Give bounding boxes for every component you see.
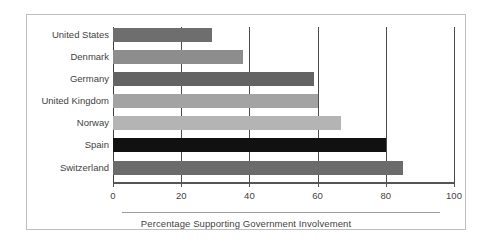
bar-germany[interactable] (113, 72, 314, 86)
bar-row (113, 71, 454, 92)
x-tick-label-60: 60 (298, 190, 338, 201)
bar-row (113, 160, 454, 181)
plot-area (113, 27, 454, 182)
bar-spain[interactable] (113, 138, 386, 152)
category-axis-labels: United States Denmark Germany United Kin… (27, 27, 109, 182)
category-label: Spain (27, 137, 109, 158)
category-label: Norway (27, 115, 109, 136)
category-label: Denmark (27, 49, 109, 70)
bar-denmark[interactable] (113, 50, 243, 64)
bar-switzerland[interactable] (113, 161, 403, 175)
category-label: United States (27, 27, 109, 48)
bar-united-states[interactable] (113, 28, 212, 42)
x-tick-label-80: 80 (366, 190, 406, 201)
bar-row (113, 137, 454, 158)
x-tick-20 (181, 182, 182, 187)
category-label: Switzerland (27, 160, 109, 181)
bar-series (113, 27, 454, 182)
bar-norway[interactable] (113, 116, 341, 130)
x-tick-40 (249, 182, 250, 187)
x-tick-label-0: 0 (93, 190, 133, 201)
gridline-100 (454, 27, 455, 182)
category-label: Germany (27, 71, 109, 92)
bar-united-kingdom[interactable] (113, 94, 318, 108)
bar-row (113, 27, 454, 48)
figure-frame: United States Denmark Germany United Kin… (26, 14, 466, 230)
x-tick-80 (386, 182, 387, 187)
bar-row (113, 93, 454, 114)
x-tick-100 (454, 182, 455, 187)
x-tick-label-100: 100 (434, 190, 474, 201)
x-tick-60 (318, 182, 319, 187)
axis-title-rule (122, 212, 440, 213)
bar-row (113, 49, 454, 70)
bar-row (113, 115, 454, 136)
category-label: United Kingdom (27, 93, 109, 114)
x-tick-label-40: 40 (229, 190, 269, 201)
x-axis-title: Percentage Supporting Government Involve… (27, 218, 465, 229)
x-axis-line (113, 182, 454, 184)
x-tick-label-20: 20 (161, 190, 201, 201)
x-tick-0 (113, 182, 114, 187)
